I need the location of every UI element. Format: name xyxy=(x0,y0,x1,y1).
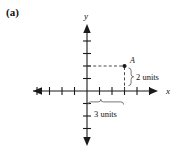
point-a-group: A xyxy=(122,56,135,68)
point-a-label: A xyxy=(129,56,135,65)
vertical-measure-label: 2 units xyxy=(136,72,159,82)
x-axis-right-arrowhead xyxy=(149,87,158,94)
x-axis-label: x xyxy=(165,86,170,96)
vertical-brace xyxy=(129,68,134,86)
horizontal-measure-label: 3 units xyxy=(94,109,117,119)
y-axis-top-arrowhead xyxy=(83,24,90,33)
guide-lines-group xyxy=(88,66,125,90)
coordinate-plot: x y A xyxy=(0,0,183,156)
point-a-marker xyxy=(122,64,126,68)
horizontal-measure-group: 3 units xyxy=(88,99,124,119)
vertical-measure-group: 2 units xyxy=(129,68,159,86)
y-axis-group: y xyxy=(83,11,91,146)
y-axis-bottom-arrowhead xyxy=(83,137,90,146)
y-axis-label: y xyxy=(83,11,88,21)
x-axis-group: x xyxy=(33,86,170,96)
coordinate-plane-figure: (a) x xyxy=(0,0,183,156)
horizontal-brace xyxy=(88,99,124,104)
